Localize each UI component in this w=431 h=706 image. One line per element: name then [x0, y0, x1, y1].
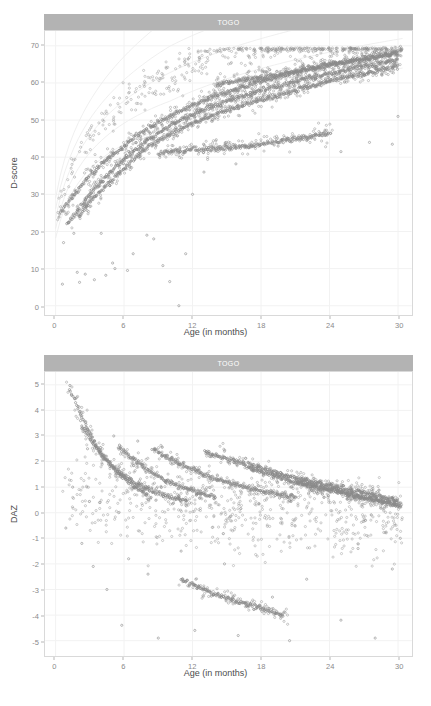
y-tick-label: 2 [35, 457, 39, 466]
x-tick-mark [192, 657, 193, 660]
figure-root: TOGO 010203040506070 0612182430 D-score … [0, 0, 431, 706]
x-tick-mark [330, 316, 331, 319]
y-tick-label: 3 [35, 431, 39, 440]
y-tick-mark [41, 119, 44, 120]
y-tick-mark [41, 194, 44, 195]
y-tick-label: 0 [35, 508, 39, 517]
y-tick-label: 30 [31, 190, 39, 199]
y-tick-label: -1 [32, 534, 39, 543]
y-axis-title-daz: DAZ [9, 505, 19, 523]
y-tick-label: -2 [32, 560, 39, 569]
strip-label-dscore: TOGO [217, 19, 239, 26]
x-tick-mark [261, 316, 262, 319]
y-tick-label: 5 [35, 379, 39, 388]
x-tick-mark [399, 316, 400, 319]
y-tick-mark [41, 231, 44, 232]
y-tick-mark [41, 538, 44, 539]
y-tick-mark [41, 512, 44, 513]
x-tick-mark [54, 657, 55, 660]
panel-dscore: TOGO 010203040506070 0612182430 D-score … [0, 0, 431, 353]
y-tick-label: -5 [32, 637, 39, 646]
x-tick-mark [261, 657, 262, 660]
y-tick-mark [41, 564, 44, 565]
x-tick-mark [54, 316, 55, 319]
plot-area-daz [44, 371, 413, 657]
y-tick-label: 60 [31, 78, 39, 87]
y-tick-mark [41, 44, 44, 45]
y-tick-mark [41, 641, 44, 642]
x-tick-mark [330, 657, 331, 660]
y-tick-label: 40 [31, 153, 39, 162]
y-tick-mark [41, 435, 44, 436]
panel-daz: TOGO -5-4-3-2-1012345 0612182430 DAZ Age… [0, 353, 431, 706]
y-tick-label: 70 [31, 40, 39, 49]
panel-strip-dscore: TOGO [44, 14, 413, 30]
x-tick-mark [123, 657, 124, 660]
x-tick-mark [123, 316, 124, 319]
y-tick-label: -4 [32, 611, 39, 620]
y-tick-mark [41, 82, 44, 83]
y-tick-label: 4 [35, 405, 39, 414]
scatter-points-dscore [45, 31, 412, 315]
plot-area-dscore [44, 30, 413, 316]
y-tick-mark [41, 269, 44, 270]
x-tick-mark [399, 657, 400, 660]
y-tick-mark [41, 409, 44, 410]
x-axis-title-dscore: Age (in months) [0, 327, 431, 337]
y-tick-mark [41, 461, 44, 462]
panel-strip-daz: TOGO [44, 355, 413, 371]
y-tick-label: -3 [32, 586, 39, 595]
strip-label-daz: TOGO [217, 360, 239, 367]
y-tick-label: 10 [31, 265, 39, 274]
x-axis-title-daz: Age (in months) [0, 668, 431, 678]
y-tick-label: 50 [31, 115, 39, 124]
y-axis-title-dscore: D-score [9, 157, 19, 189]
y-tick-mark [41, 306, 44, 307]
x-tick-mark [192, 316, 193, 319]
y-tick-mark [41, 157, 44, 158]
y-tick-label: 0 [35, 302, 39, 311]
y-tick-mark [41, 615, 44, 616]
y-tick-mark [41, 383, 44, 384]
y-tick-mark [41, 486, 44, 487]
scatter-points-daz [45, 372, 412, 656]
y-tick-label: 1 [35, 482, 39, 491]
y-tick-label: 20 [31, 227, 39, 236]
y-tick-mark [41, 590, 44, 591]
